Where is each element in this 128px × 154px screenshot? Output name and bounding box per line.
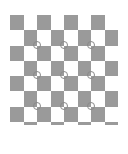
checker-square <box>37 15 51 30</box>
checker-square <box>10 107 24 122</box>
corner-marker-icon <box>60 102 68 110</box>
checker-square <box>24 122 38 125</box>
corner-marker-icon <box>60 41 68 49</box>
corner-marker-icon <box>33 71 41 79</box>
corner-marker-icon <box>87 71 95 79</box>
checker-square <box>10 76 24 91</box>
checker-square <box>105 122 119 125</box>
checker-square <box>91 15 105 30</box>
checker-square <box>105 30 119 45</box>
checker-square <box>105 61 119 76</box>
checker-square <box>51 122 65 125</box>
corner-marker-icon <box>60 71 68 79</box>
checker-square <box>105 91 119 106</box>
corner-marker-icon <box>33 41 41 49</box>
corner-marker-icon <box>33 102 41 110</box>
checker-square <box>64 15 78 30</box>
checker-square <box>78 122 92 125</box>
checker-square <box>10 15 24 30</box>
corner-marker-icon <box>87 102 95 110</box>
corner-marker-icon <box>87 41 95 49</box>
checker-square <box>10 46 24 61</box>
checkerboard-pattern <box>0 0 128 154</box>
